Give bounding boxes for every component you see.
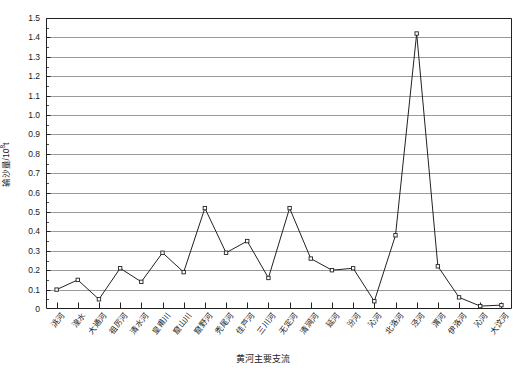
data-point-marker[interactable] — [394, 234, 397, 237]
x-axis-tick-label-text: 秃尾河 — [214, 312, 235, 336]
x-axis-tick-label-text: 祖厉河 — [108, 312, 129, 336]
data-point-marker[interactable] — [415, 32, 418, 35]
x-axis-tick-label-text: 大通河 — [87, 312, 108, 336]
y-axis-title: 输沙量/108t — [0, 110, 10, 220]
x-axis-tick-label-text: 皇甫川 — [151, 312, 172, 336]
chart-figure: 输沙量/108t 00.10.20.30.40.50.60.70.80.91.0… — [0, 0, 526, 373]
x-axis-tick-label-text: 大汶河 — [490, 312, 511, 336]
data-series-line — [57, 34, 502, 307]
y-axis-tick-label: 0.1 — [16, 285, 40, 294]
data-point-marker[interactable] — [76, 278, 79, 281]
x-axis-tick-label-text: 渭河 — [431, 312, 447, 330]
y-axis-tick-label: 0.4 — [16, 227, 40, 236]
x-axis-tick-label-text: 窟野河 — [193, 312, 214, 336]
data-point-marker[interactable] — [267, 276, 270, 279]
data-point-marker[interactable] — [436, 265, 439, 268]
y-axis-title-text: 输沙量/10 — [1, 149, 11, 188]
x-axis-tick-label-text: 北洛河 — [384, 312, 405, 336]
y-axis-tick-label: 1.4 — [16, 33, 40, 42]
x-axis-tick-label-text: 湟水 — [71, 312, 87, 330]
x-axis-tick-label-text: 清水河 — [130, 312, 151, 336]
y-axis-tick-label: 0.8 — [16, 150, 40, 159]
y-axis-tick-label: 0.9 — [16, 130, 40, 139]
gridlines — [47, 19, 512, 291]
x-axis-tick-label-text: 洮河 — [50, 312, 66, 330]
y-axis-tick-label: 0 — [16, 305, 40, 314]
y-axis-tick-label: 0.3 — [16, 247, 40, 256]
y-axis-tick-label: 0.5 — [16, 208, 40, 217]
y-axis-tick-labels: 00.10.20.30.40.50.60.70.80.91.01.11.21.3… — [16, 0, 40, 373]
data-point-marker[interactable] — [118, 267, 121, 270]
plot-frame — [47, 19, 512, 309]
data-point-marker[interactable] — [224, 251, 227, 254]
y-axis-tick-label: 1.2 — [16, 72, 40, 81]
y-axis-tick-label: 0.2 — [16, 266, 40, 275]
data-point-marker[interactable] — [330, 269, 333, 272]
plot-area — [46, 18, 512, 309]
x-axis-tick-label-text: 佳芦河 — [235, 312, 256, 336]
y-axis-tick-label: 1.5 — [16, 14, 40, 23]
y-axis-title-exponent: 8 — [0, 145, 6, 149]
data-point-marker[interactable] — [457, 296, 460, 299]
x-axis-tick-label-text: 泾河 — [410, 312, 426, 330]
line-chart-svg — [46, 18, 512, 309]
y-axis-tick-label: 1.0 — [16, 111, 40, 120]
data-point-marker[interactable] — [288, 206, 291, 209]
x-axis-tick-label-text: 三川河 — [257, 312, 278, 336]
data-point-marker[interactable] — [161, 251, 164, 254]
data-point-marker[interactable] — [182, 270, 185, 273]
x-axis-title: 黄河主要支流 — [0, 352, 526, 365]
y-axis-tick-label: 1.3 — [16, 53, 40, 62]
data-point-marker[interactable] — [479, 304, 482, 307]
x-axis-tick-label-text: 清涧河 — [299, 312, 320, 336]
x-axis-tick-labels: 洮河湟水大通河祖厉河清水河皇甫川窟山川窟野河秃尾河佳芦河三川河无定河清涧河延河汾… — [46, 309, 512, 355]
x-axis-tick-label-text: 沁河 — [473, 312, 489, 330]
data-point-marker[interactable] — [309, 257, 312, 260]
y-axis-tick-label: 0.7 — [16, 169, 40, 178]
x-axis-tick-label-text: 无定河 — [278, 312, 299, 336]
data-point-markers — [55, 32, 503, 308]
x-axis-tick-label-text: 窟山川 — [172, 312, 193, 336]
x-axis-tick-label-text: 延河 — [325, 312, 341, 330]
x-axis-tick-label-text: 汾河 — [346, 312, 362, 330]
y-axis-tick-label: 1.1 — [16, 91, 40, 100]
x-axis-tick-label-text: 伊洛河 — [447, 312, 468, 336]
data-point-marker[interactable] — [373, 300, 376, 303]
y-axis-tick-label: 0.6 — [16, 188, 40, 197]
data-point-marker[interactable] — [500, 303, 503, 306]
data-point-marker[interactable] — [246, 239, 249, 242]
series-polyline — [57, 34, 502, 307]
data-point-marker[interactable] — [351, 267, 354, 270]
data-point-marker[interactable] — [55, 288, 58, 291]
x-axis-tick-label-text: 沁河 — [367, 312, 383, 330]
data-point-marker[interactable] — [203, 206, 206, 209]
data-point-marker[interactable] — [97, 298, 100, 301]
data-point-marker[interactable] — [140, 280, 143, 283]
y-axis-ticks — [47, 19, 51, 310]
y-axis-title-unit: t — [1, 143, 11, 145]
